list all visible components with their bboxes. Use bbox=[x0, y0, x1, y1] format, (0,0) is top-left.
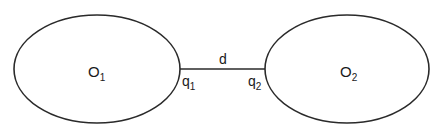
distance-diagram: O1 O2 d q1 q2 bbox=[0, 0, 443, 131]
point-q2-label: q2 bbox=[248, 73, 262, 92]
object-o2-label: O2 bbox=[340, 63, 358, 83]
distance-label: d bbox=[219, 51, 227, 67]
point-q1-label: q1 bbox=[182, 73, 196, 92]
object-o1-label: O1 bbox=[88, 63, 106, 83]
